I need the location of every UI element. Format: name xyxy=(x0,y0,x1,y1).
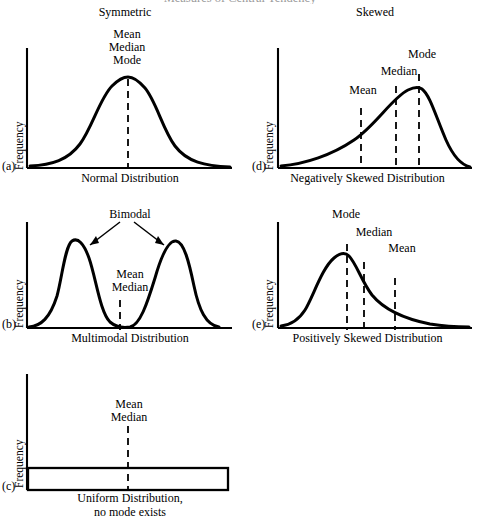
panel-e-x-axis-label: Positively Skewed Distribution xyxy=(260,332,475,346)
panel-d-annotation-median: Median xyxy=(370,65,428,78)
panel-d-tag: (d) xyxy=(252,160,266,172)
panel-b-tag: (b) xyxy=(2,318,16,330)
panel-e-annotation-mode: Mode xyxy=(318,208,374,221)
column-header-skewed: Skewed xyxy=(310,6,440,18)
panel-a-curve xyxy=(30,77,230,167)
panel-c-y-axis-label: Frequency xyxy=(14,439,26,488)
panel-a-normal-distribution: Frequency (a) Mean Median Mode Normal Di… xyxy=(0,22,240,187)
panel-b-annotation-median: Median xyxy=(96,281,164,294)
panel-e-plot xyxy=(250,200,480,350)
panel-b-arrow-left xyxy=(90,222,120,245)
panel-e-annotation-median: Median xyxy=(344,226,404,239)
panel-e-curve xyxy=(281,254,469,327)
column-header-symmetric: Symmetric xyxy=(60,6,190,18)
panel-a-tag: (a) xyxy=(2,160,15,172)
panel-d-annotation-mode: Mode xyxy=(395,48,449,61)
panel-a-y-axis-label: Frequency xyxy=(14,121,26,170)
panel-c-uniform: Frequency (c) Mean Median Uniform Distri… xyxy=(0,368,240,522)
panel-e-tag: (e) xyxy=(252,318,265,330)
panel-b-annotation-bimodal: Bimodal xyxy=(90,208,170,221)
panel-c-x-axis-label-line2: no mode exists xyxy=(35,506,225,520)
panel-b-arrow-right xyxy=(134,222,164,245)
panel-a-annotation-mode: Mode xyxy=(87,54,167,67)
panel-c-annotation-median: Median xyxy=(95,411,163,424)
panel-d-x-axis-label: Negatively Skewed Distribution xyxy=(260,172,475,186)
cropped-figure-title: Measures of Central Tendency xyxy=(0,0,480,4)
panel-b-multimodal: Frequency (b) Bimodal Mean Median Multim… xyxy=(0,200,240,350)
panel-e-annotation-mean: Mean xyxy=(376,242,428,255)
panel-b-x-axis-label: Multimodal Distribution xyxy=(35,332,225,346)
panel-a-x-axis-label: Normal Distribution xyxy=(40,172,220,186)
panel-c-x-axis-label-line1: Uniform Distribution, xyxy=(35,492,225,506)
panel-d-annotation-mean: Mean xyxy=(338,84,388,97)
figure-root: Measures of Central Tendency Symmetric S… xyxy=(0,0,480,522)
panel-c-tag: (c) xyxy=(2,480,15,492)
panel-e-y-axis-label: Frequency xyxy=(264,279,276,328)
panel-d-negatively-skewed: Frequency (d) Mean Median Mode Negativel… xyxy=(250,22,480,187)
panel-d-curve xyxy=(281,87,470,167)
panel-e-positively-skewed: Frequency (e) Mode Median Mean Positivel… xyxy=(250,200,480,350)
panel-d-plot xyxy=(250,22,480,187)
